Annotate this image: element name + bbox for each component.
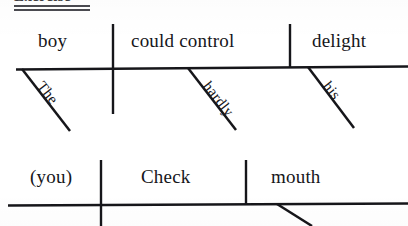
diagram-1-subject: boy <box>38 31 67 50</box>
diagram-2-subject: (you) <box>30 167 72 186</box>
diagram-2-direct-object: mouth <box>271 167 321 186</box>
diagram-1-direct-object: delight <box>312 31 366 50</box>
diagram-2-verb: Check <box>141 167 191 186</box>
diagram-2-modifier-line <box>277 204 312 226</box>
diagram-2-baseline <box>8 204 408 206</box>
diagram-1-verb: could control <box>131 31 234 50</box>
sentence-diagram-page: Exercise <box>0 0 408 226</box>
diagram-1-baseline <box>16 67 408 70</box>
